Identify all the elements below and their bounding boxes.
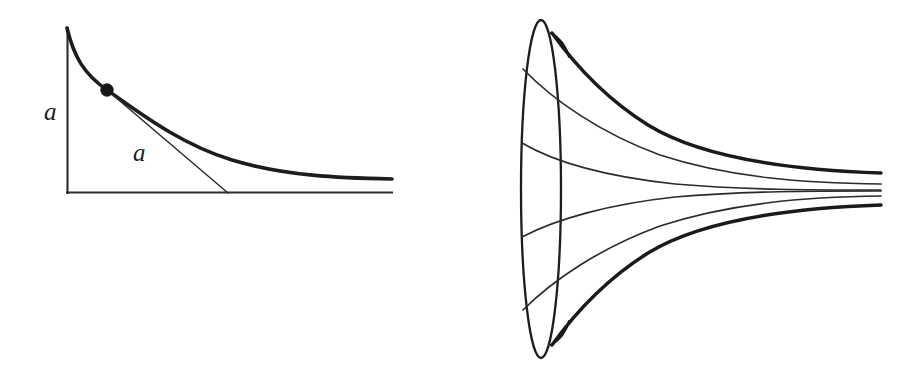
label-a-tangent: a bbox=[133, 139, 146, 166]
profile-top-bold bbox=[552, 33, 881, 173]
tangency-point-dot bbox=[101, 84, 113, 96]
rim-ellipse bbox=[521, 20, 561, 358]
profile-thin-curve-4 bbox=[523, 196, 881, 310]
tractrix-and-pseudosphere-figure: a a bbox=[0, 0, 923, 379]
tangent-segment bbox=[107, 90, 228, 193]
tractrix-curve bbox=[67, 28, 392, 179]
label-a-vertical: a bbox=[44, 98, 57, 125]
pseudosphere-diagram bbox=[521, 20, 881, 358]
figure-canvas: a a bbox=[0, 0, 923, 379]
profile-thin-curve-1 bbox=[523, 69, 881, 184]
profile-bottom-bold bbox=[552, 205, 881, 345]
tractrix-diagram: a a bbox=[44, 28, 392, 193]
